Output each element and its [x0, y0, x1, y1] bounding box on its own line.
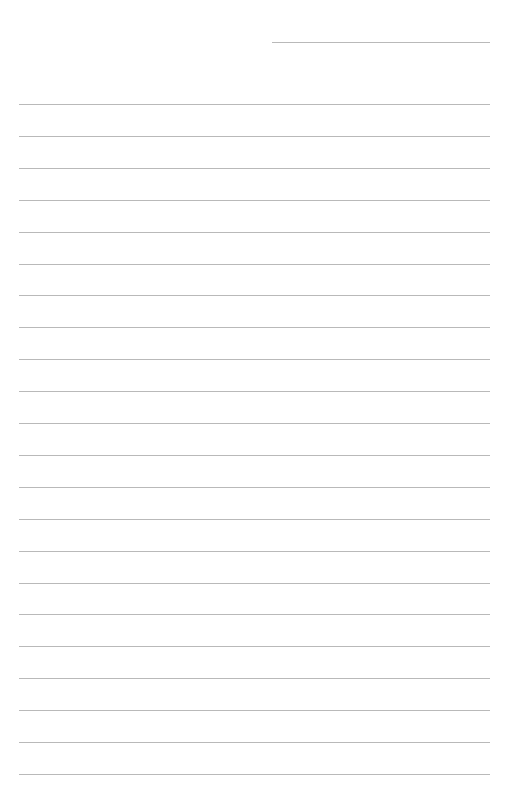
- ruled-line: [19, 774, 490, 775]
- ruled-line: [19, 232, 490, 233]
- ruled-line: [19, 391, 490, 392]
- ruled-line: [19, 455, 490, 456]
- ruled-line: [19, 104, 490, 105]
- header-line: [272, 42, 490, 43]
- ruled-line: [19, 551, 490, 552]
- lined-paper-sheet: [0, 0, 517, 810]
- ruled-line: [19, 423, 490, 424]
- ruled-line: [19, 583, 490, 584]
- ruled-line: [19, 200, 490, 201]
- ruled-line: [19, 327, 490, 328]
- ruled-line: [19, 678, 490, 679]
- ruled-line: [19, 519, 490, 520]
- ruled-line: [19, 359, 490, 360]
- ruled-line: [19, 646, 490, 647]
- ruled-line: [19, 168, 490, 169]
- ruled-line: [19, 742, 490, 743]
- ruled-line: [19, 710, 490, 711]
- ruled-line: [19, 264, 490, 265]
- ruled-line: [19, 614, 490, 615]
- ruled-line: [19, 136, 490, 137]
- ruled-line: [19, 295, 490, 296]
- ruled-line: [19, 487, 490, 488]
